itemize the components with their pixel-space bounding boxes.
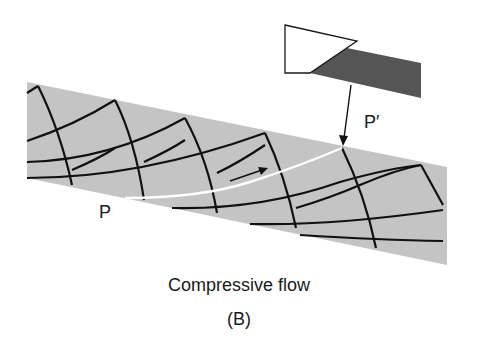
point-start-label: P [99,202,111,223]
pointer-arrow-icon [339,85,351,146]
panel-label: (B) [0,309,478,330]
figure-caption: Compressive flow [0,275,478,296]
point-end-label: P′ [364,112,379,133]
cutting-tool [285,25,421,98]
